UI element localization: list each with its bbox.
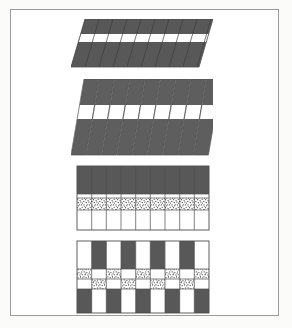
figure-root: [0, 0, 292, 328]
layer-white-bottom: [77, 210, 209, 230]
panel-2-sheared-column-array: [71, 79, 213, 159]
figure-frame: [10, 9, 279, 316]
panel-3-canvas: [75, 164, 211, 232]
layer-dark-top: [77, 166, 209, 194]
panel-4-offset-checkerboard-grid: [75, 239, 211, 315]
layer-white-gap: [77, 194, 209, 198]
panel-1-horizontal-banded-sheared-block: [71, 19, 213, 71]
panel-4-canvas: [75, 239, 211, 315]
panel-2-columns: [71, 79, 213, 155]
layer-speckle-middle: [77, 198, 209, 210]
panel-1-bands: [71, 19, 213, 68]
panel-3-three-layer-column-grid: [75, 164, 211, 232]
panel-1-canvas: [71, 19, 213, 71]
panel-2-canvas: [71, 79, 213, 159]
band-dark-top: [71, 19, 213, 34]
